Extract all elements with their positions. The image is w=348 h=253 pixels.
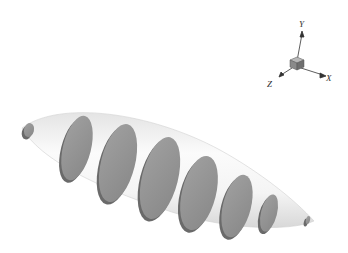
x-axis-label: X xyxy=(325,73,332,83)
z-axis-label: Z xyxy=(267,79,273,89)
z-axis-arrowhead xyxy=(279,72,284,77)
axes-triad: Y X Z xyxy=(267,19,332,89)
y-axis-arrowhead xyxy=(300,31,304,37)
y-axis-arrow xyxy=(297,34,302,61)
y-axis-label: Y xyxy=(299,19,305,29)
figure-canvas: Y X Z xyxy=(0,0,348,253)
origin-cube-icon xyxy=(290,57,304,70)
